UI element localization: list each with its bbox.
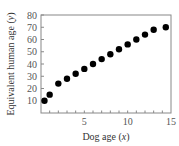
- x-axis-title: Dog age (x): [82, 131, 129, 143]
- data-point: [163, 24, 169, 30]
- data-point: [46, 91, 52, 97]
- y-tick-label: 30: [27, 71, 37, 82]
- data-point: [142, 31, 148, 37]
- data-point: [98, 56, 104, 62]
- data-point: [124, 41, 130, 47]
- x-tick-label: 5: [82, 116, 87, 127]
- y-tick-label: 60: [27, 34, 37, 45]
- data-points: [41, 24, 169, 104]
- data-point: [107, 51, 113, 57]
- data-point: [133, 36, 139, 42]
- y-tick-label: 50: [27, 46, 37, 57]
- y-tick-label: 10: [27, 95, 37, 106]
- y-tick-label: 80: [27, 10, 37, 21]
- data-point: [150, 27, 156, 33]
- data-point: [90, 61, 96, 67]
- x-tick-label: 10: [123, 116, 133, 127]
- y-tick-label: 20: [27, 83, 37, 94]
- data-point: [72, 71, 78, 77]
- data-point: [55, 80, 61, 86]
- data-point: [41, 98, 47, 104]
- scatter-chart: 1020304050607080 51015 Dog age (x) Equiv…: [0, 0, 179, 146]
- data-point: [64, 76, 70, 82]
- data-point: [116, 46, 122, 52]
- data-point: [81, 66, 87, 72]
- y-tick-label: 70: [27, 22, 37, 33]
- y-tick-label: 40: [27, 59, 37, 70]
- y-axis-title: Equivalent human age (y): [5, 12, 17, 115]
- x-tick-label: 15: [166, 116, 176, 127]
